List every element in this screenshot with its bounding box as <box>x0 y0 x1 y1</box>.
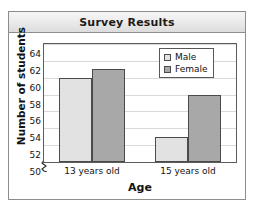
bar-male-0 <box>59 78 92 162</box>
y-axis-tick: 64 <box>15 49 41 59</box>
legend-label: Male <box>175 52 196 62</box>
chart-legend: MaleFemale <box>159 48 214 78</box>
chart-screenshot: Survey Results Number of students 505254… <box>0 0 256 212</box>
y-axis-tick: 56 <box>15 116 41 126</box>
legend-swatch-female-icon <box>164 66 171 73</box>
y-axis-tick: 58 <box>15 100 41 110</box>
bar-male-1 <box>155 137 188 162</box>
legend-item-female: Female <box>164 64 208 74</box>
legend-label: Female <box>175 64 208 74</box>
y-axis-tick-labels: 5052545658606264 <box>11 43 41 163</box>
x-axis-title: Age <box>43 181 237 194</box>
y-axis-tick: 62 <box>15 66 41 76</box>
chart-panel: Survey Results Number of students 505254… <box>8 11 246 200</box>
bar-female-1 <box>188 95 221 162</box>
chart-title-bar: Survey Results <box>9 12 245 33</box>
bar-female-0 <box>92 69 125 162</box>
x-axis-tick: 15 years old <box>160 166 216 176</box>
y-axis-tick: 54 <box>15 133 41 143</box>
legend-swatch-male-icon <box>164 54 171 61</box>
x-axis-tick: 13 years old <box>64 166 120 176</box>
chart-title: Survey Results <box>79 16 175 29</box>
y-axis-tick: 60 <box>15 83 41 93</box>
gridline <box>44 44 236 45</box>
chart-body: Number of students 5052545658606264 Male… <box>9 33 245 200</box>
legend-item-male: Male <box>164 52 208 62</box>
